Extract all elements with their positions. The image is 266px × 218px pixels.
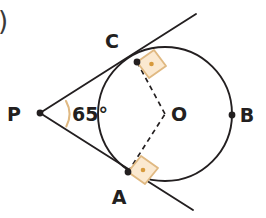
point-dot-c — [134, 59, 141, 66]
point-dot-b — [229, 112, 236, 119]
angle-arc-p — [66, 101, 69, 127]
geometry-diagram: ) P C A O B — [0, 0, 266, 218]
right-angle-marker-c — [137, 50, 166, 78]
point-label-a: A — [112, 186, 127, 208]
point-dot-p — [37, 110, 44, 117]
right-angle-dot-c — [149, 62, 154, 67]
right-angle-dot-a — [141, 168, 146, 173]
point-label-p: P — [7, 103, 21, 125]
point-label-c: C — [105, 30, 119, 52]
tangent-line-upper — [40, 14, 196, 113]
point-label-o: O — [171, 103, 187, 125]
geometry-canvas: ) P C A O B — [0, 0, 266, 218]
point-label-b: B — [240, 104, 254, 126]
angle-measure-label: 65° — [72, 103, 108, 125]
figure-label-paren: ) — [0, 6, 8, 36]
point-dot-a — [125, 169, 132, 176]
